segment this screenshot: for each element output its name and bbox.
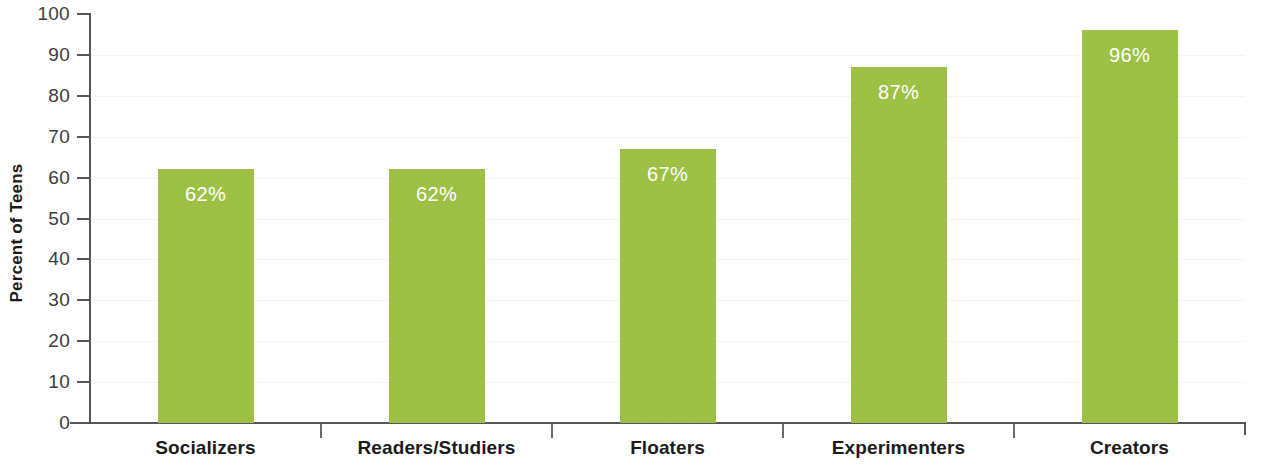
x-axis-category-label: Creators xyxy=(1014,437,1245,459)
y-axis-tick xyxy=(77,95,90,97)
y-axis-tick xyxy=(77,13,90,15)
y-axis-tick-label: 80 xyxy=(16,85,70,107)
y-axis-tick-label: 50 xyxy=(16,208,70,230)
bar-value-label: 67% xyxy=(620,163,716,186)
y-axis-tick xyxy=(77,299,90,301)
bar: 87% xyxy=(851,67,947,423)
plot-area: 62%62%67%87%96% xyxy=(90,14,1245,423)
x-axis-separator-tick xyxy=(782,424,784,438)
bar: 67% xyxy=(620,149,716,423)
bar-value-label: 62% xyxy=(158,183,254,206)
bar-value-label: 62% xyxy=(389,183,485,206)
y-axis-tick xyxy=(77,54,90,56)
bar: 62% xyxy=(158,169,254,423)
y-axis-tick-label: 10 xyxy=(16,371,70,393)
bar-chart: Percent of Teens 1009080706050403020100 … xyxy=(0,0,1264,466)
y-axis-tick-label: 60 xyxy=(16,167,70,189)
y-axis-tick xyxy=(77,136,90,138)
y-axis-tick-label: 30 xyxy=(16,289,70,311)
y-axis-tick-label: 70 xyxy=(16,126,70,148)
bar: 62% xyxy=(389,169,485,423)
x-axis-separator-tick xyxy=(1013,424,1015,438)
y-axis-tick-label: 20 xyxy=(16,330,70,352)
y-axis-tick xyxy=(77,381,90,383)
y-axis-tick-label: 90 xyxy=(16,44,70,66)
bar-value-label: 96% xyxy=(1082,44,1178,67)
x-axis-separator-tick xyxy=(551,424,553,438)
x-axis-category-label: Socializers xyxy=(90,437,321,459)
x-axis-end-tick xyxy=(1244,422,1246,435)
x-axis-category-label: Experimenters xyxy=(783,437,1014,459)
y-axis-tick xyxy=(77,218,90,220)
y-axis-tick xyxy=(77,177,90,179)
y-axis-tick-label: 0 xyxy=(16,412,70,434)
y-axis-title: Percent of Teens xyxy=(0,0,34,466)
y-axis-tick xyxy=(77,422,90,424)
bar-value-label: 87% xyxy=(851,81,947,104)
y-axis-tick xyxy=(77,340,90,342)
bar: 96% xyxy=(1082,30,1178,423)
y-axis-tick xyxy=(77,258,90,260)
x-axis-category-label: Readers/Studiers xyxy=(321,437,552,459)
x-axis-separator-tick xyxy=(320,424,322,438)
y-axis-tick-label: 40 xyxy=(16,248,70,270)
x-axis-category-label: Floaters xyxy=(552,437,783,459)
y-axis-tick-label: 100 xyxy=(16,3,70,25)
